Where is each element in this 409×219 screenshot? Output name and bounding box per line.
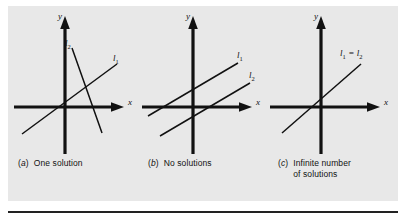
caption-text-c-line-2: of solutions <box>293 169 337 179</box>
caption-text-b: No solutions <box>164 158 212 168</box>
line-label-l1-b: l1 <box>237 50 243 62</box>
x-axis-a <box>14 102 124 112</box>
caption-tag-c: c <box>278 158 288 168</box>
x-axis-c <box>270 102 380 112</box>
figure-panel-b: x y l1 l2 bNo solutions <box>138 6 268 201</box>
x-axis-label-b: x <box>255 97 260 107</box>
line-l2-a <box>72 48 102 133</box>
caption-b: bNo solutions <box>148 158 273 169</box>
x-axis-label-c: x <box>383 97 388 107</box>
figure-panels-row: x y l2 l1 aOne solution <box>8 6 398 201</box>
x-axis-label-a: x <box>127 97 132 107</box>
caption-a: aOne solution <box>18 158 143 169</box>
caption-tag-b: b <box>148 158 159 168</box>
diagram-c-infinite-solutions: x y l1=l2 <box>268 6 398 156</box>
y-axis-label-c: y <box>313 11 318 21</box>
diagram-b-no-solutions: x y l1 l2 <box>138 6 268 156</box>
figure-bottom-rule <box>8 211 398 213</box>
figure-panel-c: x y l1=l2 cInfinite numberof solutions <box>268 6 398 201</box>
line-label-l1-equals-l2-c: l1=l2 <box>340 48 363 60</box>
y-axis-a <box>60 16 70 154</box>
y-axis-label-b: y <box>185 11 190 21</box>
line-label-l2-a: l2 <box>65 38 71 50</box>
figure-root: x y l2 l1 aOne solution <box>0 0 409 219</box>
caption-tag-a: a <box>18 158 29 168</box>
caption-text-c-line-1: Infinite number <box>293 158 351 168</box>
caption-c: cInfinite numberof solutions <box>278 158 403 180</box>
caption-text-a: One solution <box>34 158 83 168</box>
caption-text-c: Infinite numberof solutions <box>293 158 379 180</box>
line-l1-a <box>22 64 117 134</box>
y-axis-b <box>188 16 198 154</box>
line-label-l1-a: l1 <box>113 53 119 65</box>
figure-panel-a: x y l2 l1 aOne solution <box>8 6 138 201</box>
y-axis-c <box>316 16 326 154</box>
line-l2-b <box>160 83 250 136</box>
diagram-a-one-solution: x y l2 l1 <box>8 6 138 156</box>
line-label-l2-b: l2 <box>249 70 255 82</box>
y-axis-label-a: y <box>57 11 62 21</box>
